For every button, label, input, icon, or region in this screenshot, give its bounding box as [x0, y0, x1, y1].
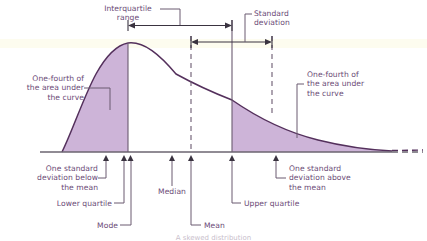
mode-leader [120, 161, 131, 225]
curve-tail-dashes [392, 150, 423, 151]
upper-quartile-leader [232, 161, 241, 203]
sd-above-mean-label: One standard deviation above the mean [289, 164, 389, 192]
tick-upper-quartile [229, 155, 235, 161]
tick-mode [128, 155, 134, 161]
tick-sd-above [273, 155, 279, 161]
sd-below-mean-label: One standard deviation below the mean [4, 164, 98, 192]
one-fourth-right-leader [297, 84, 304, 138]
mean-leader [191, 161, 201, 225]
median-label: Median [152, 187, 192, 196]
standard-deviation-label: Standard deviation [254, 9, 326, 28]
mode-label: Mode [60, 221, 118, 230]
upper-quartile-area [232, 100, 392, 152]
one-fourth-area-left-label: One-fourth of the area under the curve [4, 74, 84, 102]
sd-below-leader [98, 161, 106, 178]
tick-median [169, 155, 175, 161]
tick-mean [188, 155, 194, 161]
baseline-tick-markers [103, 155, 279, 161]
figure-caption: A skewed distribution [0, 234, 427, 241]
upper-quartile-label: Upper quartile [244, 199, 334, 208]
mean-label: Mean [204, 221, 254, 230]
one-fourth-area-right-label: One-fourth of the area under the curve [307, 70, 403, 98]
sd-above-leader [276, 161, 286, 178]
tick-sd-below [103, 155, 109, 161]
highlight-band [0, 39, 427, 48]
interquartile-range-label: Interquartile range [92, 4, 164, 23]
skewed-distribution-figure: Interquartile range Standard deviation O… [0, 0, 427, 241]
lower-quartile-label: Lower quartile [24, 199, 112, 208]
lower-quartile-leader [114, 161, 124, 203]
tick-lower-quartile [121, 155, 127, 161]
standard-deviation-leader [245, 14, 252, 42]
